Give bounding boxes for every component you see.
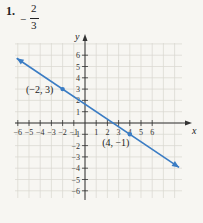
x-tick-label: 6 [150, 128, 154, 137]
x-tick-label: −5 [25, 128, 34, 137]
line-arrow-right-icon [172, 161, 179, 167]
y-tick-label: −4 [71, 164, 80, 173]
x-tick-label: 1 [94, 128, 98, 137]
x-tick-label: −6 [14, 128, 23, 137]
coordinate-plane: xy−6−5−4−3−2−1123456654321−1−2−3−4−5−6(−… [0, 0, 203, 223]
x-axis-arrow-icon [185, 121, 192, 126]
y-tick-label: 5 [76, 63, 80, 72]
y-tick-label: 3 [76, 85, 80, 94]
point-label: (4, −1) [102, 137, 129, 149]
x-tick-label: −4 [36, 128, 45, 137]
y-axis-arrow-icon [83, 34, 88, 41]
y-axis-label: y [74, 31, 80, 42]
x-tick-label: 2 [105, 128, 109, 137]
x-tick-label: 3 [117, 128, 121, 137]
x-axis-label: x [191, 125, 197, 136]
y-tick-label: 1 [76, 108, 80, 117]
data-point [128, 132, 132, 136]
y-tick-label: −2 [71, 142, 80, 151]
y-tick-label: −5 [71, 176, 80, 185]
x-tick-label: −3 [47, 128, 56, 137]
y-tick-label: 6 [76, 51, 80, 60]
y-tick-label: 4 [76, 74, 80, 83]
graph-line [17, 58, 179, 167]
x-tick-label: −2 [58, 128, 67, 137]
y-tick-label: −1 [71, 130, 80, 139]
point-label: (−2, 3) [26, 84, 53, 96]
y-tick-label: −6 [71, 187, 80, 196]
data-point [60, 87, 64, 91]
x-tick-label: 5 [139, 128, 143, 137]
y-tick-label: −3 [71, 153, 80, 162]
